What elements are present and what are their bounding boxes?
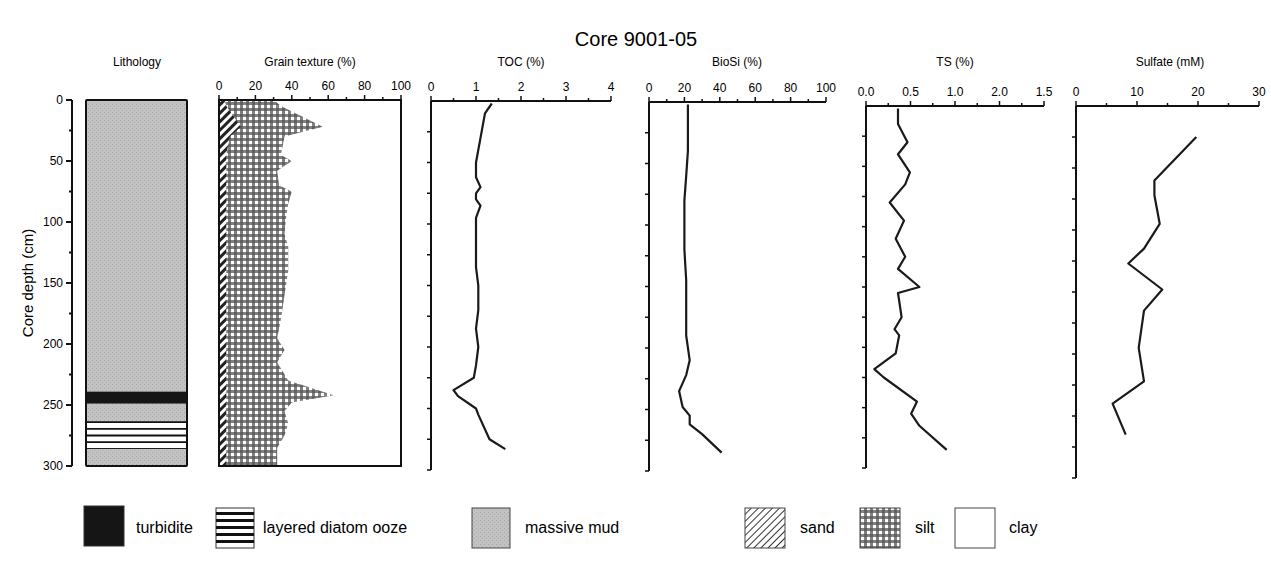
layer-massive-mud xyxy=(86,404,187,422)
biosi-title: BioSi (%) xyxy=(712,55,762,69)
legend: turbidite layered diatom ooze massive mu… xyxy=(84,506,1037,548)
x-tick-label: 2 xyxy=(518,80,525,94)
sulfate-line xyxy=(1113,137,1197,435)
lithology-title: Lithology xyxy=(113,55,161,69)
x-tick-label: 60 xyxy=(322,79,336,93)
legend-label-sand: sand xyxy=(800,519,835,536)
legend-swatch-massive-mud xyxy=(472,508,510,548)
depth-tick-label: 50 xyxy=(50,154,64,168)
ts-line xyxy=(874,108,946,450)
depth-tick-label: 100 xyxy=(43,215,63,229)
depth-tick-label: 150 xyxy=(43,276,63,290)
ts-panel: TS (%) 0.00.51.02.01.5 xyxy=(858,55,1053,468)
x-tick-label: 20 xyxy=(678,81,692,95)
x-tick-label: 20 xyxy=(1191,85,1205,99)
x-tick-label: 100 xyxy=(391,79,411,93)
legend-swatch-turbidite xyxy=(84,506,124,546)
layer-massive-mud xyxy=(86,100,187,392)
depth-tick-label: 300 xyxy=(43,459,63,473)
x-tick-label: 1 xyxy=(473,80,480,94)
toc-title: TOC (%) xyxy=(497,55,544,69)
sulfate-panel: Sulfate (mM) 0102030 xyxy=(1072,55,1266,478)
lithology-panel: Lithology xyxy=(86,55,187,466)
toc-line xyxy=(454,104,506,450)
x-tick-label: 80 xyxy=(358,79,372,93)
y-axis-label: Core depth (cm) xyxy=(19,229,36,337)
x-tick-label: 30 xyxy=(1252,85,1266,99)
depth-tick-label: 200 xyxy=(43,337,63,351)
x-tick-label: 0 xyxy=(1073,85,1080,99)
sulfate-title: Sulfate (mM) xyxy=(1136,55,1205,69)
layer-turbidite xyxy=(86,392,187,404)
x-tick-label: 10 xyxy=(1130,85,1144,99)
legend-label-clay: clay xyxy=(1009,519,1037,536)
silt-area xyxy=(219,100,334,466)
x-tick-label: 40 xyxy=(285,79,299,93)
legend-swatch-silt xyxy=(860,508,900,548)
x-tick-label: 40 xyxy=(713,81,727,95)
chart-title: Core 9001-05 xyxy=(575,28,697,50)
grain-texture-panel: Grain texture (%) 020406080100 xyxy=(216,55,412,466)
legend-label-massive-mud: massive mud xyxy=(525,519,619,536)
legend-label-turbidite: turbidite xyxy=(136,519,193,536)
layer-massive-mud xyxy=(86,449,187,466)
x-tick-label: 0 xyxy=(646,81,653,95)
depth-tick-label: 250 xyxy=(43,398,63,412)
x-tick-label: 1.0 xyxy=(947,85,964,99)
grain-texture-title: Grain texture (%) xyxy=(264,55,355,69)
depth-axis: 050100150200250300 xyxy=(43,93,72,473)
toc-panel: TOC (%) 01234 xyxy=(427,55,615,470)
x-tick-label: 60 xyxy=(749,81,763,95)
x-tick-label: 1.5 xyxy=(1036,85,1053,99)
biosi-panel: BioSi (%) 020406080100 xyxy=(645,55,836,471)
depth-tick-label: 0 xyxy=(56,93,63,107)
biosi-line xyxy=(679,105,722,453)
legend-swatch-clay xyxy=(955,508,995,548)
legend-label-silt: silt xyxy=(915,519,935,536)
x-tick-label: 0.0 xyxy=(858,85,875,99)
x-tick-label: 0 xyxy=(428,80,435,94)
legend-swatch-sand xyxy=(745,508,785,548)
x-tick-label: 80 xyxy=(784,81,798,95)
x-tick-label: 20 xyxy=(249,79,263,93)
x-tick-label: 100 xyxy=(816,81,836,95)
legend-label-layered-diatom-ooze: layered diatom ooze xyxy=(263,519,407,536)
x-tick-label: 0 xyxy=(216,79,223,93)
x-tick-label: 0.5 xyxy=(902,85,919,99)
x-tick-label: 4 xyxy=(608,80,615,94)
x-tick-label: 2.0 xyxy=(991,85,1008,99)
ts-title: TS (%) xyxy=(936,55,973,69)
core-chart: Core 9001-05 050100150200250300 Core dep… xyxy=(0,0,1271,569)
legend-swatch-layered-diatom-ooze xyxy=(216,508,254,548)
x-tick-label: 3 xyxy=(563,80,570,94)
